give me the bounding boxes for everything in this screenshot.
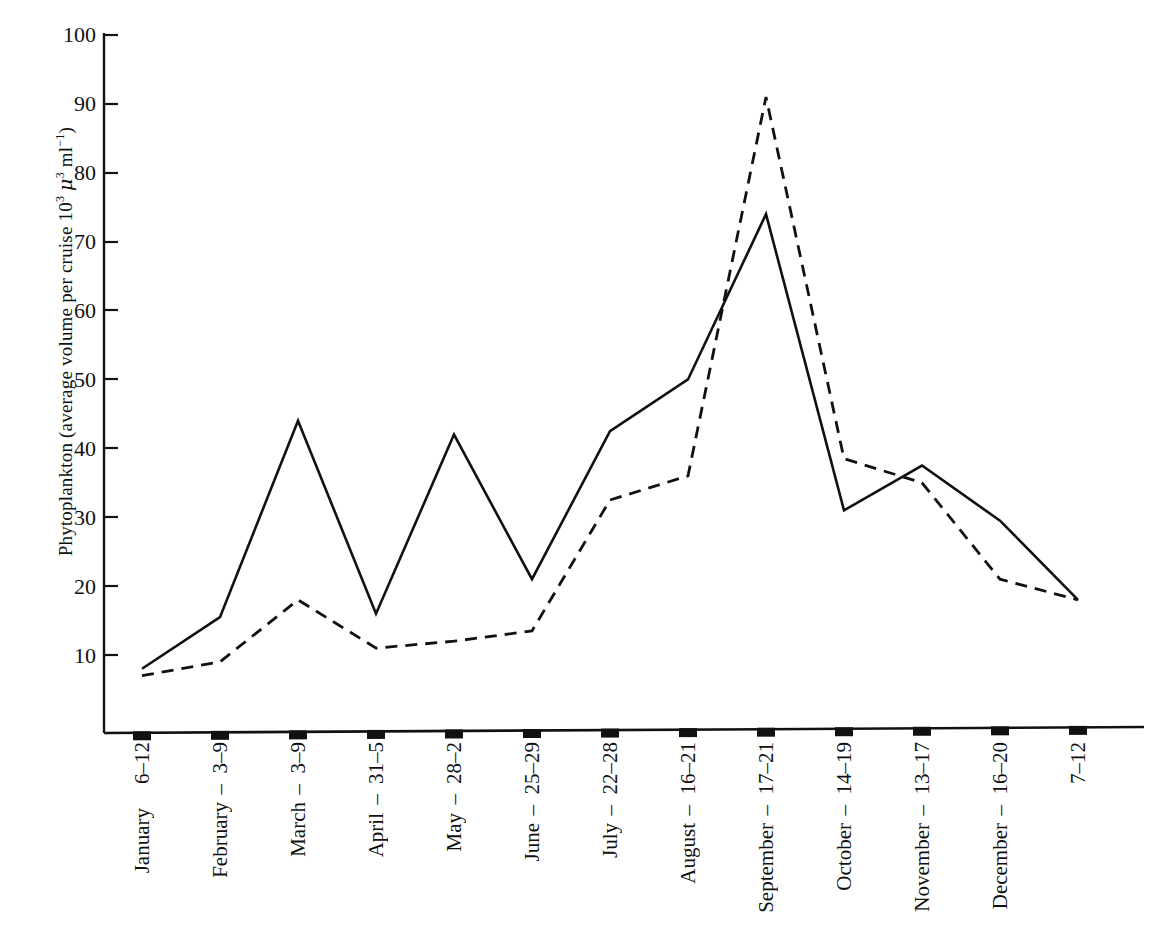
x-tick-month-label: May (444, 813, 465, 852)
x-tick-group: 25–29–June (519, 742, 545, 862)
x-tick-date-range: 3–9 (210, 742, 231, 774)
x-tick-date-range: 3–9 (288, 742, 309, 774)
x-tick-month-label: April (366, 813, 387, 857)
figure-canvas: Phytoplankton (average volume per cruise… (0, 0, 1154, 927)
x-tick-group: 31–5–April (363, 742, 389, 857)
x-tick-separator-dash: – (912, 805, 933, 816)
x-tick-month-label: March (288, 802, 309, 857)
x-tick-month-label: June (522, 823, 543, 862)
x-axis-line (104, 727, 1144, 733)
x-tick-date-range: 16–20 (990, 742, 1011, 795)
x-tick-separator-dash: – (210, 784, 231, 795)
y-axis-ticks (104, 35, 118, 655)
x-tick-group: 13–17–November (909, 742, 935, 912)
x-tick-group: 28–2–May (441, 742, 467, 851)
x-tick-month-label: February (210, 802, 231, 878)
x-tick-date-range: 17–21 (756, 742, 777, 795)
x-tick-date-range: 22–28 (600, 742, 621, 795)
x-tick-group: 16–20–December (987, 742, 1013, 909)
x-tick-separator-dash: – (366, 794, 387, 805)
x-tick-group: 17–21–September (753, 742, 779, 913)
x-tick-date-range: 13–17 (912, 742, 933, 795)
x-tick-group: 3–9–March (285, 742, 311, 857)
x-tick-separator-dash: – (678, 805, 699, 816)
x-tick-month-label: July (600, 823, 621, 858)
x-tick-date-range: 28–2 (444, 742, 465, 784)
x-tick-group: 3–9–February (207, 742, 233, 878)
x-tick-month-label: December (990, 823, 1011, 909)
x-tick-date-range: 6–12 (132, 742, 153, 784)
x-tick-date-range: 25–29 (522, 742, 543, 795)
x-tick-date-range: 7–12 (1068, 742, 1089, 784)
plot-area (0, 0, 1154, 760)
x-tick-separator-dash: – (522, 805, 543, 816)
x-tick-month-label: October (834, 823, 855, 891)
x-tick-separator-dash: – (834, 805, 855, 816)
x-tick-separator-dash: – (600, 805, 621, 816)
x-tick-month-label: August (678, 823, 699, 884)
x-tick-group: 6–12January (129, 742, 155, 873)
x-tick-group: 14–19–October (831, 742, 857, 891)
x-tick-separator-dash: – (756, 805, 777, 816)
x-tick-group: 22–28–July (597, 742, 623, 858)
x-tick-separator-dash: – (444, 794, 465, 805)
series-dashed-line (142, 97, 1078, 676)
x-tick-date-range: 31–5 (366, 742, 387, 784)
x-tick-month-label: January (132, 808, 153, 873)
x-tick-month-label: September (756, 823, 777, 913)
x-tick-month-label: November (912, 823, 933, 912)
x-tick-group: 7–12 (1065, 742, 1091, 784)
x-tick-group: 16–21–August (675, 742, 701, 884)
x-tick-date-range: 14–19 (834, 742, 855, 795)
x-tick-date-range: 16–21 (678, 742, 699, 795)
x-tick-separator-dash: – (288, 784, 309, 795)
series-solid-line (142, 214, 1078, 669)
x-tick-separator-dash: – (990, 805, 1011, 816)
